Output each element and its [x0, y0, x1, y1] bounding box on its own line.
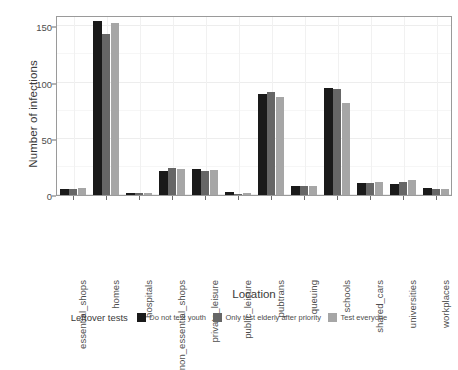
legend-label: Test everyone — [340, 313, 387, 322]
legend-swatch-icon — [137, 313, 146, 322]
bar — [324, 88, 332, 195]
bar — [390, 184, 398, 195]
bar — [102, 34, 110, 195]
x-axis-tick-mark — [403, 196, 404, 200]
bar — [135, 193, 143, 195]
bar — [192, 169, 200, 195]
x-axis-tick-mark — [205, 196, 206, 200]
x-axis-tick-mark — [271, 196, 272, 200]
bar — [126, 193, 134, 195]
bar — [300, 186, 308, 195]
y-axis-tick-label: 150 — [26, 22, 52, 33]
bar — [225, 192, 233, 195]
gridline-vertical — [140, 17, 141, 195]
y-axis-tick-mark — [52, 27, 56, 28]
x-axis-tick-mark — [238, 196, 239, 200]
x-axis-tick-mark — [139, 196, 140, 200]
legend-label: Do not test youth — [149, 313, 206, 322]
gridline-vertical — [239, 17, 240, 195]
bar — [366, 183, 374, 195]
bar — [159, 171, 167, 195]
bar — [201, 171, 209, 195]
bar — [441, 189, 449, 195]
bar — [93, 21, 101, 195]
bar — [258, 94, 266, 195]
bar — [276, 97, 284, 195]
gridline-vertical — [305, 17, 306, 195]
bar — [309, 186, 317, 195]
x-axis-tick-mark — [73, 196, 74, 200]
legend-entry[interactable]: Only test elderly after priority — [213, 313, 321, 322]
bar — [144, 193, 152, 195]
x-axis-title: Location — [56, 288, 452, 300]
bar — [78, 188, 86, 195]
bar — [234, 194, 242, 195]
bar — [243, 193, 251, 195]
legend-swatch-icon — [328, 313, 337, 322]
bar — [69, 189, 77, 195]
y-axis-tick-labels: 050100150 — [22, 0, 52, 344]
bar — [111, 23, 119, 195]
bar — [357, 183, 365, 195]
y-axis-tick-mark — [52, 139, 56, 140]
bar — [399, 182, 407, 196]
x-axis-tick-mark — [172, 196, 173, 200]
y-axis-tick-label: 100 — [26, 78, 52, 89]
x-axis-tick-mark — [106, 196, 107, 200]
plot-panel — [56, 16, 452, 196]
x-axis-tick-marks — [56, 196, 452, 201]
legend-swatch-icon — [213, 313, 222, 322]
legend-title: Leftover tests — [71, 312, 128, 323]
gridline-vertical — [404, 17, 405, 195]
gridline-vertical — [371, 17, 372, 195]
y-axis-tick-mark — [52, 83, 56, 84]
bar — [375, 182, 383, 196]
bar — [333, 89, 341, 195]
bar — [267, 92, 275, 196]
bar — [291, 186, 299, 195]
gridline-vertical — [437, 17, 438, 195]
y-axis-tick-label: 50 — [26, 134, 52, 145]
bar — [168, 168, 176, 195]
bar — [177, 169, 185, 195]
bar — [423, 188, 431, 195]
legend-label: Only test elderly after priority — [226, 313, 321, 322]
bar — [408, 180, 416, 195]
legend-entry[interactable]: Test everyone — [328, 313, 387, 322]
x-axis-tick-mark — [304, 196, 305, 200]
x-axis-tick-mark — [370, 196, 371, 200]
y-axis-tick-mark — [52, 196, 56, 197]
bar — [342, 103, 350, 195]
y-axis-tick-label: 0 — [26, 191, 52, 202]
bar — [432, 189, 440, 195]
x-axis-tick-mark — [337, 196, 338, 200]
chart-legend: Leftover tests Do not test youthOnly tes… — [0, 312, 458, 323]
x-axis-tick-labels: essential_shopshomeshospitalsnon_essenti… — [56, 202, 452, 282]
bar — [60, 189, 68, 195]
gridline-vertical — [74, 17, 75, 195]
legend-entry[interactable]: Do not test youth — [137, 313, 206, 322]
bar — [210, 170, 218, 195]
gridline-vertical — [206, 17, 207, 195]
x-axis-tick-mark — [436, 196, 437, 200]
